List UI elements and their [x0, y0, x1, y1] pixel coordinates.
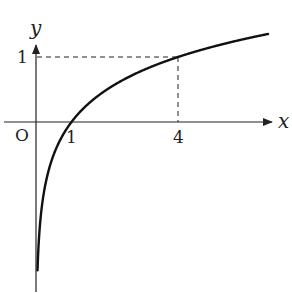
- log-curve: [38, 34, 269, 270]
- x-axis-label: x: [278, 109, 289, 133]
- x-tick-label-1: 1: [66, 127, 77, 147]
- y-tick-label-1: 1: [17, 47, 28, 67]
- log-function-chart: y x O 1 1 4: [0, 0, 292, 293]
- x-tick-label-4: 4: [173, 127, 184, 147]
- y-axis-label: y: [29, 16, 42, 40]
- origin-label: O: [15, 125, 29, 145]
